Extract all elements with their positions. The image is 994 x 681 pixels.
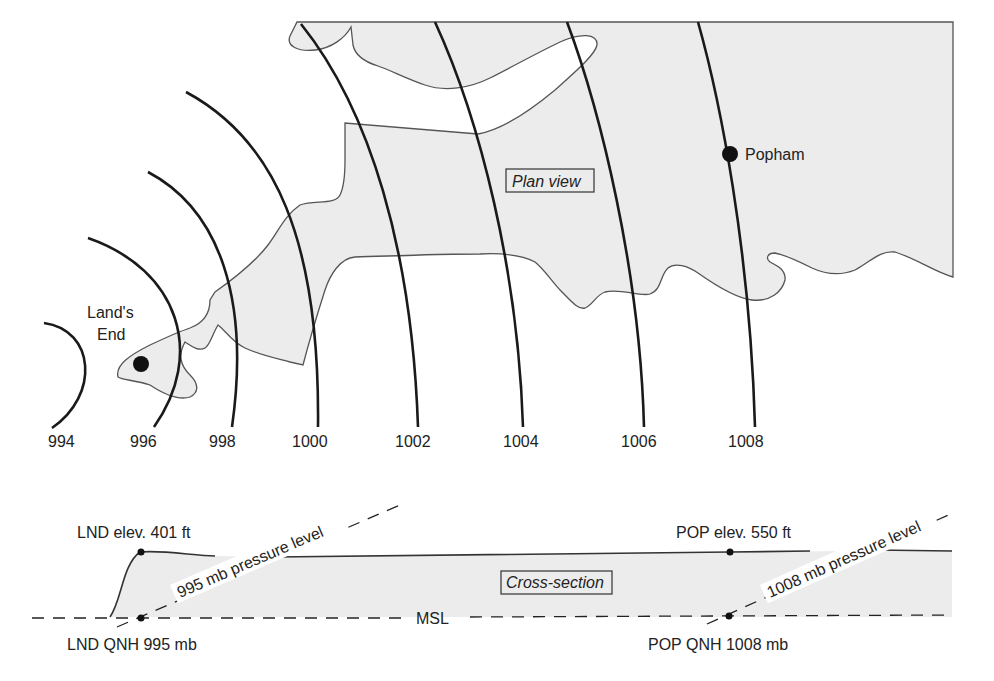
lands-end-label-line2: End	[97, 326, 125, 343]
map-drawing: 994 996 998 1000 1002 1004 1006 1008 Lan…	[0, 0, 994, 681]
isobar-label-1002: 1002	[395, 433, 431, 450]
isobar-label-1008: 1008	[728, 433, 764, 450]
pop-qnh-marker	[726, 613, 733, 620]
popham-marker	[722, 146, 738, 162]
isobar-label-998: 998	[209, 433, 236, 450]
isobar-labels: 994 996 998 1000 1002 1004 1006 1008	[48, 433, 764, 450]
lnd-qnh-marker	[138, 615, 145, 622]
isobar-label-996: 996	[130, 433, 157, 450]
lnd-qnh-label: LND QNH 995 mb	[67, 636, 197, 653]
isobar-label-1006: 1006	[621, 433, 657, 450]
isobar-label-1004: 1004	[503, 433, 539, 450]
lnd-elevation-label: LND elev. 401 ft	[77, 524, 191, 541]
pop-qnh-label: POP QNH 1008 mb	[648, 636, 788, 653]
cross-section-label: Cross-section	[506, 574, 604, 591]
pop-elevation-marker	[727, 549, 734, 556]
isobar-label-1000: 1000	[292, 433, 328, 450]
isobar-label-994: 994	[48, 433, 75, 450]
lnd-elevation-marker	[138, 549, 145, 556]
lands-end-label-line1: Land's	[87, 304, 134, 321]
plan-view-label: Plan view	[512, 173, 582, 190]
pop-elevation-label: POP elev. 550 ft	[676, 524, 792, 541]
msl-label: MSL	[416, 610, 449, 627]
popham-label: Popham	[745, 146, 805, 163]
lands-end-marker	[133, 356, 149, 372]
